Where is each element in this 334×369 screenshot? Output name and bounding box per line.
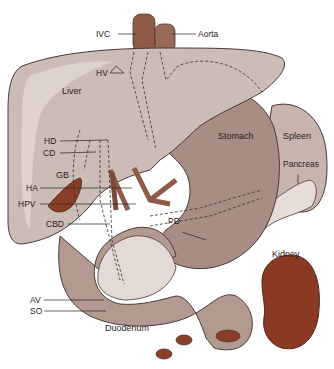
label-ha: HA <box>26 184 38 193</box>
label-spleen: Spleen <box>283 132 311 141</box>
label-hpv: HPV <box>18 200 35 209</box>
label-av: AV <box>30 296 41 305</box>
label-cd: CD <box>43 149 55 158</box>
label-gb: GB <box>56 171 69 180</box>
label-hd: HD <box>44 137 56 146</box>
kidney-shape <box>262 255 319 349</box>
label-stomach: Stomach <box>218 132 254 141</box>
anatomy-diagram <box>0 0 334 369</box>
ivc-vessel <box>133 14 155 52</box>
label-ivc: IVC <box>96 30 110 39</box>
vessel-stump-1 <box>156 349 172 359</box>
label-cbd: CBD <box>46 220 64 229</box>
label-duodenum: Duodenum <box>105 324 149 333</box>
label-kidney: Kidney <box>272 250 300 259</box>
label-pd: PD <box>168 217 180 226</box>
label-hv: HV <box>96 69 108 78</box>
label-liver: Liver <box>62 87 82 96</box>
vessel-stump-2 <box>176 335 192 345</box>
vessel-stump-3 <box>216 330 240 342</box>
label-so: SO <box>30 307 42 316</box>
label-pancreas: Pancreas <box>283 160 319 169</box>
label-aorta: Aorta <box>198 30 218 39</box>
